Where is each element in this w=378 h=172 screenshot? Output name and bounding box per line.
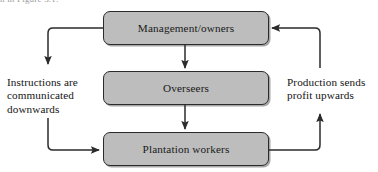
- node-management-owners[interactable]: Management/owners: [103, 11, 269, 45]
- connector-left-down-to-workers: [48, 118, 99, 150]
- node-management-owners-label: Management/owners: [138, 22, 234, 34]
- annotation-production-upwards: Production sends profit upwards: [287, 76, 375, 103]
- connector-management-down-left: [48, 28, 103, 64]
- node-overseers[interactable]: Overseers: [103, 71, 269, 105]
- connector-workers-up-right: [269, 114, 320, 150]
- annotation-instructions-downwards: Instructions are communicated downwards: [7, 76, 99, 116]
- node-plantation-workers-label: Plantation workers: [143, 143, 230, 155]
- connector-right-up-to-management: [272, 28, 320, 68]
- figure-container: n in Figure 3.1: Management/owners Overs…: [0, 0, 378, 172]
- annotation-left-line-2: communicated: [7, 89, 99, 102]
- annotation-right-line-1: Production sends: [287, 76, 375, 89]
- annotation-right-line-2: profit upwards: [287, 89, 375, 102]
- annotation-left-line-3: downwards: [7, 103, 99, 116]
- annotation-left-line-1: Instructions are: [7, 76, 99, 89]
- node-plantation-workers[interactable]: Plantation workers: [103, 132, 269, 166]
- node-overseers-label: Overseers: [163, 82, 209, 94]
